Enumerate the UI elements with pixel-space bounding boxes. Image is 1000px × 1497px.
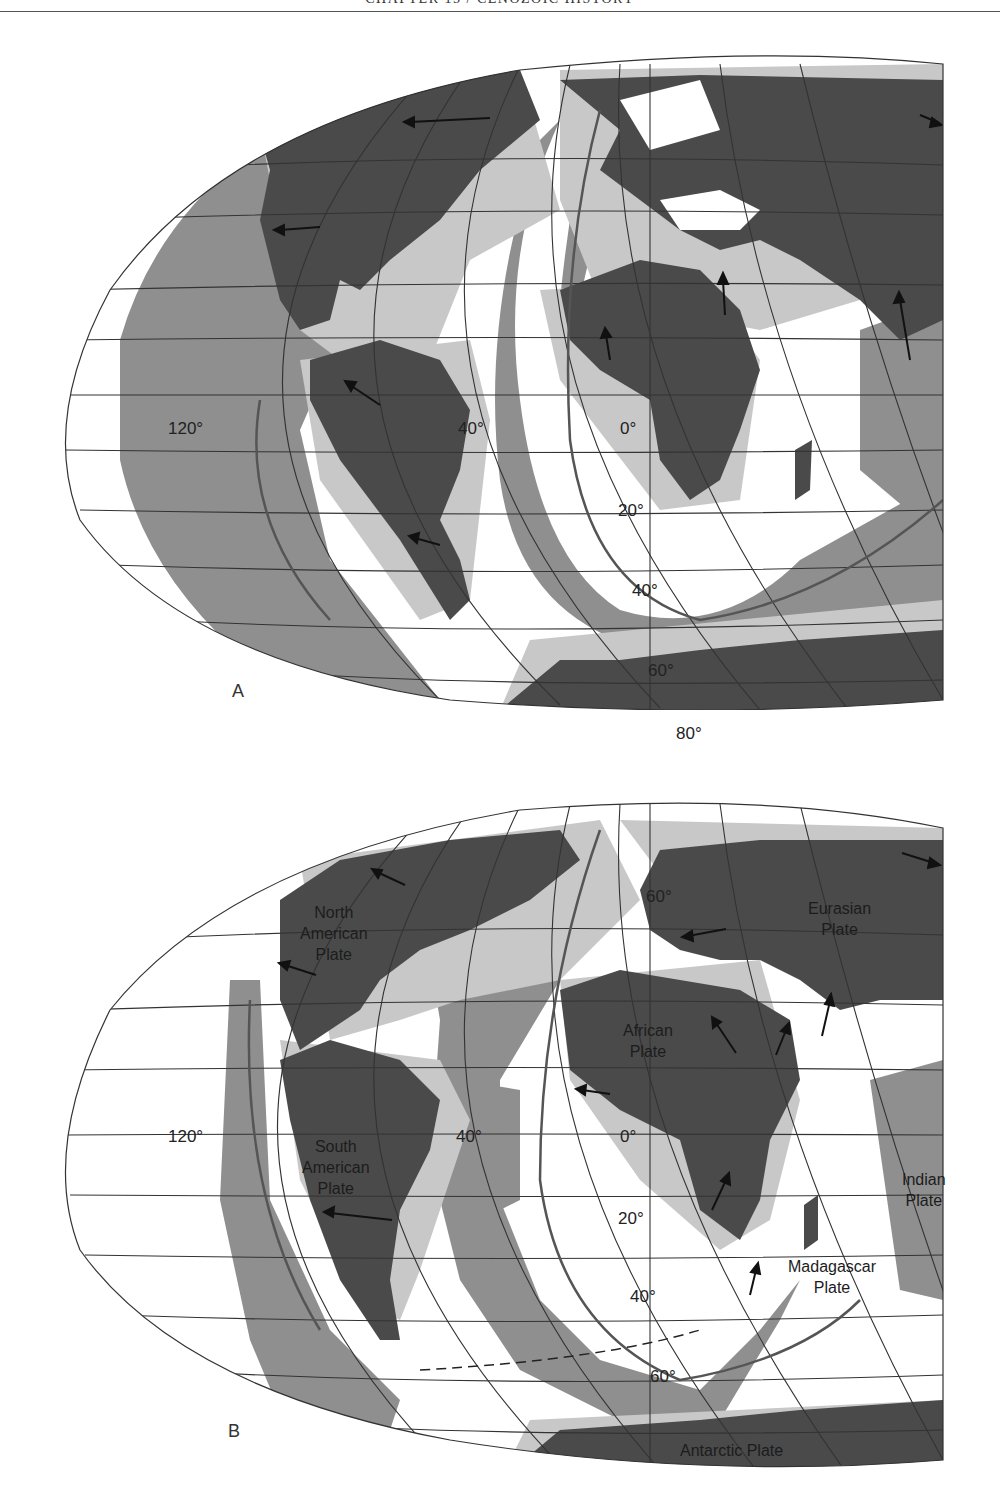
map-b-lat-60n-label: 60° xyxy=(646,888,672,905)
eurasian-plate-label: Eurasian Plate xyxy=(808,898,871,940)
map-a-lat-80-label: 80° xyxy=(676,725,702,742)
map-b-lon-120-label: 120° xyxy=(168,1128,203,1145)
map-b-lat-40-label: 40° xyxy=(630,1288,656,1305)
page-header: CHAPTER 15 / CENOZOIC HISTORY xyxy=(0,0,1000,22)
map-b: 120° 40° 0° 60° 20° 40° 60° B North Amer… xyxy=(0,780,1000,1497)
map-a-lat-60-label: 60° xyxy=(648,662,674,679)
north-american-plate-label: North American Plate xyxy=(300,902,368,965)
map-b-graphic xyxy=(0,780,1000,1497)
map-b-lon-40-label: 40° xyxy=(456,1128,482,1145)
african-plate-label: African Plate xyxy=(623,1020,673,1062)
map-b-lat-60-label: 60° xyxy=(650,1368,676,1385)
map-a-lat-20-label: 20° xyxy=(618,502,644,519)
indian-plate-label: Indian Plate xyxy=(902,1169,946,1211)
header-rule xyxy=(0,11,1000,12)
map-b-panel-label: B xyxy=(228,1422,240,1440)
map-a-lat-40-label: 40° xyxy=(632,582,658,599)
antarctic-plate-label: Antarctic Plate xyxy=(680,1440,783,1461)
map-a-panel-label: A xyxy=(232,682,244,700)
south-american-plate-label: South American Plate xyxy=(302,1136,370,1199)
map-b-lon-0-label: 0° xyxy=(620,1128,636,1145)
map-a-lon-40-label: 40° xyxy=(458,420,484,437)
map-a-graphic xyxy=(0,50,1000,710)
madagascar-plate-label: Madagascar Plate xyxy=(788,1256,876,1298)
running-title: CHAPTER 15 / CENOZOIC HISTORY xyxy=(0,0,1000,7)
map-a-lon-0-label: 0° xyxy=(620,420,636,437)
map-a: 120° 40° 0° 20° 40° 60° 80° A xyxy=(0,50,1000,710)
map-a-lon-120-label: 120° xyxy=(168,420,203,437)
map-b-lat-20-label: 20° xyxy=(618,1210,644,1227)
